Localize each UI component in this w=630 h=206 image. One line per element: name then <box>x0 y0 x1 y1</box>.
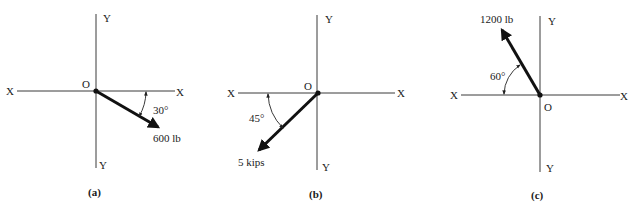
origin-label: O <box>82 78 90 90</box>
panel-caption: (c) <box>531 189 544 202</box>
panel-c: Y Y X X O 60° 1200 lb (c) <box>450 13 628 202</box>
x-axis-left-label: X <box>450 89 458 101</box>
force-vector-arrow <box>96 91 158 127</box>
y-axis-bottom-label: Y <box>99 159 107 171</box>
angle-label: 45° <box>249 112 264 124</box>
angle-label: 30° <box>153 104 168 116</box>
force-vector-diagrams: Y Y X X O 30° 600 lb (a) Y Y X X O 45° 5… <box>0 0 630 206</box>
x-axis-right-label: X <box>397 87 405 99</box>
angle-arc <box>504 65 520 94</box>
origin-label: O <box>544 101 552 113</box>
origin-point <box>315 90 320 95</box>
panel-a: Y Y X X O 30° 600 lb (a) <box>6 12 184 199</box>
angle-arc <box>268 94 283 128</box>
panel-caption: (a) <box>88 186 101 199</box>
force-magnitude-label: 600 lb <box>153 132 181 144</box>
x-axis-left-label: X <box>227 87 235 99</box>
force-vector-arrow <box>502 30 540 95</box>
x-axis-right-label: X <box>620 90 628 102</box>
y-axis-top-label: Y <box>103 12 111 24</box>
x-axis-right-label: X <box>176 86 184 98</box>
y-axis-bottom-label: Y <box>546 162 554 174</box>
angle-label: 60° <box>490 70 505 82</box>
x-axis-left-label: X <box>6 85 14 97</box>
origin-point <box>93 88 98 93</box>
force-magnitude-label: 5 kips <box>238 156 265 168</box>
force-vector-arrow <box>259 93 318 150</box>
y-axis-bottom-label: Y <box>322 161 330 173</box>
y-axis-top-label: Y <box>325 13 333 25</box>
origin-point <box>537 92 542 97</box>
y-axis-top-label: Y <box>548 15 556 27</box>
panel-caption: (b) <box>309 188 323 201</box>
panel-b: Y Y X X O 45° 5 kips (b) <box>227 13 405 201</box>
angle-arc <box>139 92 146 116</box>
origin-label: O <box>304 80 312 92</box>
force-magnitude-label: 1200 lb <box>480 13 514 25</box>
